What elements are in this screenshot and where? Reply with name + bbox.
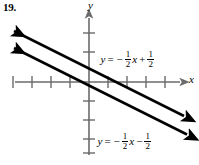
y-axis-label: y bbox=[88, 0, 93, 11]
equation-lower-sign1: − bbox=[112, 136, 121, 147]
equation-lower-coef-denominator: 2 bbox=[122, 142, 129, 151]
x-axis-label: x bbox=[189, 73, 194, 85]
equation-lower-const-denominator: 2 bbox=[144, 142, 151, 151]
equation-upper-sign2: + bbox=[138, 54, 147, 65]
equation-upper-coefficient: 1 2 bbox=[125, 50, 132, 69]
equation-lower-constant: 1 2 bbox=[144, 132, 151, 151]
graph-figure: 19. bbox=[0, 0, 199, 165]
equation-lower-equals: = bbox=[103, 136, 112, 147]
x-axis bbox=[13, 76, 180, 88]
equation-upper-equals: = bbox=[106, 54, 115, 65]
equation-lower-coefficient: 1 2 bbox=[122, 132, 129, 151]
equation-upper-const-denominator: 2 bbox=[147, 60, 154, 69]
equation-label-lower: y = − 1 2 x − 1 2 bbox=[97, 132, 151, 151]
equation-lower-sign2: − bbox=[135, 136, 144, 147]
equation-upper-sign1: − bbox=[115, 54, 124, 65]
equation-upper-constant: 1 2 bbox=[147, 50, 154, 69]
equation-label-upper: y = − 1 2 x + 1 2 bbox=[100, 50, 154, 69]
line-upper bbox=[14, 31, 184, 116]
equation-upper-coef-denominator: 2 bbox=[125, 60, 132, 69]
